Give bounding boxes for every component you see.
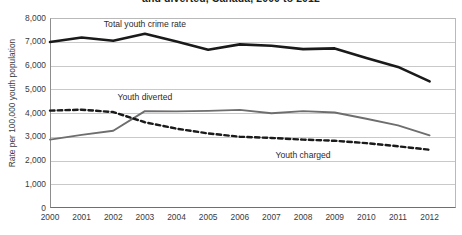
youth-crime-line-chart: and diverted, Canada, 2000 to 2012 Rate … [0,0,462,235]
series-line [50,110,430,150]
x-tick-label: 2008 [294,212,313,222]
y-tick-label: 5,000 [12,85,46,93]
chart-title: and diverted, Canada, 2000 to 2012 [0,0,462,4]
x-tick-label: 2001 [72,212,91,222]
x-tick-label: 2003 [136,212,155,222]
plot-area: Total youth crime rateYouth divertedYout… [50,18,456,208]
y-tick-label: 4,000 [12,109,46,117]
y-tick-label: 6,000 [12,61,46,69]
x-tick-label: 2009 [325,212,344,222]
series-line [50,110,430,140]
x-tick-label: 2000 [41,212,60,222]
y-tick-label: 2,000 [12,156,46,164]
x-tick-label: 2005 [199,212,218,222]
y-tick-label: 3,000 [12,132,46,140]
x-tick-label: 2002 [104,212,123,222]
x-axis-tick-labels: 2000200120022003200420052006200720082009… [50,212,456,226]
series-label: Youth charged [276,150,331,160]
x-tick-label: 2011 [389,212,407,222]
series-layer [50,18,456,208]
x-tick-label: 2006 [230,212,249,222]
series-label: Youth diverted [118,92,173,102]
x-tick-label: 2004 [167,212,186,222]
x-tick-label: 2010 [357,212,376,222]
series-label: Total youth crime rate [104,19,186,29]
x-tick-label: 2007 [262,212,281,222]
y-tick-label: 8,000 [12,14,46,22]
y-tick-label: 0 [12,204,46,212]
y-axis-tick-labels: 01,0002,0003,0004,0005,0006,0007,0008,00… [8,0,46,235]
x-tick-label: 2012 [420,212,439,222]
y-tick-label: 7,000 [12,37,46,45]
y-tick-label: 1,000 [12,180,46,188]
series-line [50,34,430,82]
